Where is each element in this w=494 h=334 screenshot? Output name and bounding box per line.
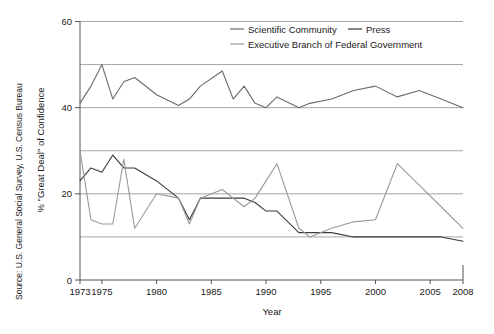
x-tick-label-1985: 1985	[201, 286, 222, 297]
legend-label-press: Press	[366, 24, 391, 35]
y-tick-label-40: 40	[61, 102, 72, 113]
x-axis-title: Year	[262, 306, 281, 317]
x-tick-label-1973: 1973	[69, 286, 90, 297]
line-chart: 0204060 19731975198019851990199520002005…	[0, 0, 494, 334]
x-tick-label-1980: 1980	[146, 286, 167, 297]
source-note: Source: U.S. General Social Survey, U.S.…	[14, 83, 24, 300]
chart-figure: 0204060 19731975198019851990199520002005…	[0, 0, 494, 334]
x-tick-label-1990: 1990	[255, 286, 276, 297]
x-tick-label-2008: 2008	[452, 286, 473, 297]
y-tick-label-60: 60	[61, 16, 72, 27]
x-tick-label-1975: 1975	[91, 286, 112, 297]
legend-label-executive-branch-of-federal-government: Executive Branch of Federal Government	[248, 39, 423, 50]
x-tick-label-1995: 1995	[310, 286, 331, 297]
legend-label-scientific-community: Scientific Community	[248, 24, 337, 35]
y-tick-label-20: 20	[61, 188, 72, 199]
y-axis-title: % "Great Deal" of Confidence	[35, 87, 46, 212]
chart-background	[0, 0, 494, 334]
x-tick-label-2005: 2005	[420, 286, 441, 297]
y-tick-label-0: 0	[67, 275, 72, 286]
x-tick-label-2000: 2000	[365, 286, 386, 297]
